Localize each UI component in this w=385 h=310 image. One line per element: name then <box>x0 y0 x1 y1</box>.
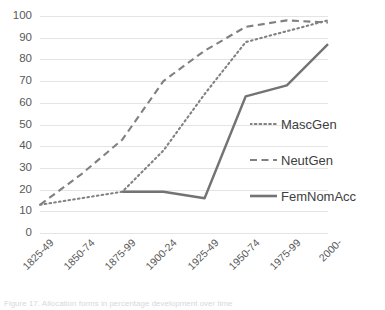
y-axis-tick-label: 60 <box>19 97 32 109</box>
y-axis-tick-label: 0 <box>26 227 32 239</box>
legend-item-label: FemNomAcc <box>281 189 356 204</box>
x-axis-tick-label: 1975-99 <box>268 237 303 272</box>
x-axis-tick-label: 1875-99 <box>103 237 138 272</box>
y-axis-tick-label: 100 <box>13 10 32 22</box>
x-axis-tick-label: 1925-49 <box>185 237 220 272</box>
chart-figure: 1009080706050403020100 1825-491850-74187… <box>0 0 385 310</box>
figure-caption: Figure 17. Allocation forms in percentag… <box>4 299 385 309</box>
legend-item-label: NeutGen <box>281 153 333 168</box>
x-axis-tick-label: 2000- <box>317 237 343 263</box>
y-axis-tick-label: 20 <box>19 184 32 196</box>
y-axis-tick-label: 50 <box>19 119 32 131</box>
chart-legend: MascGenNeutGenFemNomAcc <box>250 106 385 214</box>
x-axis-tick-label: 1950-74 <box>226 237 261 272</box>
y-axis-tick-label: 40 <box>19 140 32 152</box>
dashed-line-icon <box>250 155 277 165</box>
dotted-line-icon <box>250 119 277 129</box>
y-axis-tick-label: 30 <box>19 162 32 174</box>
legend-item-label: MascGen <box>281 117 337 132</box>
x-axis-tick-label: 1850-74 <box>62 237 97 272</box>
y-axis-tick-label: 80 <box>19 54 32 66</box>
legend-item-neutgen[interactable]: NeutGen <box>250 142 385 178</box>
y-axis: 1009080706050403020100 <box>0 0 36 249</box>
y-axis-tick-label: 70 <box>19 75 32 87</box>
y-axis-tick-label: 90 <box>19 32 32 44</box>
legend-item-mascgen[interactable]: MascGen <box>250 106 385 142</box>
x-axis-tick-label: 1900-24 <box>144 237 179 272</box>
legend-item-femnomacc[interactable]: FemNomAcc <box>250 178 385 214</box>
x-axis: 1825-491850-741875-991900-241925-491950-… <box>40 233 328 293</box>
solid-line-icon <box>250 191 277 201</box>
y-axis-tick-label: 10 <box>19 206 32 218</box>
